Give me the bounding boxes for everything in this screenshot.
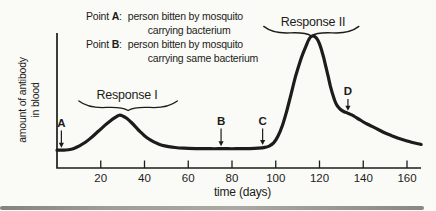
- point-label-a: A: [57, 117, 65, 129]
- response-label: Response I: [96, 88, 157, 102]
- point-label-b: B: [217, 115, 225, 127]
- point-arrow-head: [345, 106, 350, 111]
- figure-antibody-response: Point A: person bitten by mosquito carry…: [0, 0, 436, 211]
- point-label-d: D: [344, 85, 352, 97]
- point-label-c: C: [258, 115, 266, 127]
- x-tick-label: 80: [226, 172, 239, 184]
- x-tick-label: 40: [138, 172, 151, 184]
- antibody-response-chart: 20406080100120140160ABCDResponse IRespon…: [0, 0, 436, 211]
- x-tick-label: 20: [94, 172, 107, 184]
- x-axis-label: time (days): [180, 185, 305, 199]
- response-brace: [79, 101, 177, 111]
- x-tick-label: 120: [310, 172, 329, 184]
- x-tick-label: 100: [266, 172, 285, 184]
- x-tick-label: 140: [354, 172, 373, 184]
- x-tick-label: 60: [182, 172, 195, 184]
- x-tick-label: 160: [397, 172, 416, 184]
- scan-artifact-bar: [0, 206, 424, 210]
- point-arrow-head: [218, 141, 223, 146]
- point-arrow-head: [260, 140, 265, 145]
- response-label: Response II: [281, 15, 346, 29]
- point-arrow-head: [59, 143, 64, 148]
